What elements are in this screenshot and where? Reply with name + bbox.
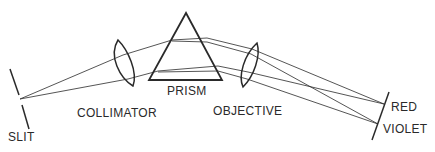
- incident-rays: [20, 55, 128, 99]
- refracted-rays: [123, 38, 252, 79]
- violet-label: VIOLET: [383, 123, 427, 135]
- objective-lens-icon: [241, 43, 258, 87]
- prism-label: PRISM: [167, 85, 207, 97]
- slit-label: SLIT: [8, 131, 35, 143]
- objective-label: OBJECTIVE: [213, 105, 282, 117]
- slit-icon: [10, 69, 29, 129]
- red-label: RED: [391, 101, 417, 113]
- prism-icon: [149, 13, 222, 80]
- diagram-canvas: [0, 0, 435, 152]
- collimator-label: COLLIMATOR: [77, 107, 157, 119]
- collimator-lens-icon: [114, 40, 134, 86]
